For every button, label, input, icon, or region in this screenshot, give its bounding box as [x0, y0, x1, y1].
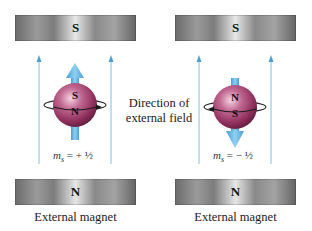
ms-value: = + ½ — [67, 149, 93, 161]
field-line-left-1 — [37, 55, 42, 164]
electron-right-upper-pole: N — [228, 91, 242, 103]
magnet-pole-label: N — [71, 184, 80, 200]
field-direction-line2: external field — [114, 111, 204, 126]
magnet-bottom-right: N — [175, 179, 296, 205]
magnet-pole-label: S — [72, 20, 79, 36]
field-direction-line1: Direction of — [114, 96, 204, 111]
field-line-right-2 — [269, 55, 274, 164]
field-line-left-2 — [109, 55, 114, 164]
magnet-pole-label: S — [232, 20, 239, 36]
ms-subscript: s — [221, 155, 224, 164]
ms-subscript: s — [61, 155, 64, 164]
electron-left-upper-pole: S — [68, 89, 82, 101]
ms-symbol: m — [53, 149, 61, 161]
magnet-top-right: S — [175, 15, 296, 41]
spin-quantum-number-left: ms = + ½ — [53, 149, 93, 164]
caption-right: External magnet — [175, 210, 296, 225]
electron-right-lower-pole: S — [228, 107, 242, 119]
magnet-bottom-left: N — [15, 179, 136, 205]
magnet-pole-label: N — [231, 184, 240, 200]
ms-symbol: m — [213, 149, 221, 161]
spin-quantum-number-right: ms = − ½ — [213, 149, 253, 164]
field-direction-label: Direction of external field — [114, 96, 204, 126]
magnet-top-left: S — [15, 15, 136, 41]
ms-value: = − ½ — [227, 149, 253, 161]
electron-left-lower-pole: N — [68, 105, 82, 117]
caption-left: External magnet — [15, 210, 136, 225]
